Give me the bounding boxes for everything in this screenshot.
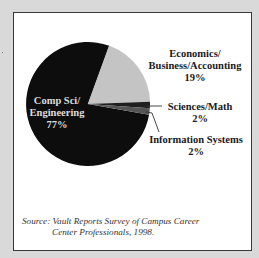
label-value: 77% bbox=[26, 119, 88, 131]
label-line: Business/Accounting bbox=[146, 60, 244, 72]
label-sciences-math: Sciences/Math 2% bbox=[162, 101, 238, 125]
label-line: Economics/ bbox=[146, 48, 244, 60]
label-line: Information Systems bbox=[148, 134, 244, 146]
label-line: Engineering bbox=[26, 107, 88, 119]
label-line: Comp Sci/ bbox=[26, 95, 88, 107]
label-comp-sci-engineering: Comp Sci/ Engineering 77% bbox=[26, 95, 88, 131]
label-economics-business-accounting: Economics/ Business/Accounting 19% bbox=[146, 48, 244, 84]
label-information-systems: Information Systems 2% bbox=[148, 134, 244, 158]
source-line-2: Center Professionals, 1998. bbox=[22, 227, 199, 238]
source-note: Source: Vault Reports Survey of Campus C… bbox=[22, 216, 199, 238]
label-value: 2% bbox=[148, 146, 244, 158]
label-value: 2% bbox=[162, 113, 238, 125]
source-line-1: Source: Vault Reports Survey of Campus C… bbox=[22, 216, 199, 226]
label-line: Sciences/Math bbox=[162, 101, 238, 113]
label-value: 19% bbox=[146, 72, 244, 84]
